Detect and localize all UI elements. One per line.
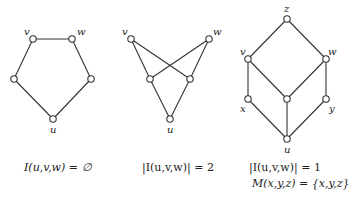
- edge-z-v: [248, 19, 287, 59]
- edge-b-u: [170, 79, 190, 119]
- node-v: [30, 36, 36, 42]
- node-v: [128, 36, 134, 42]
- node-x: [245, 96, 251, 102]
- graph-pentagon: [11, 36, 94, 122]
- node-u: [167, 116, 173, 122]
- graph-cube: [245, 16, 329, 142]
- node-w: [69, 36, 75, 42]
- node-z: [284, 16, 290, 22]
- node-label-w: w: [328, 47, 337, 57]
- caption-pentagon: I(u,v,w) = ∅: [24, 162, 92, 173]
- edge-v-m: [248, 59, 287, 99]
- caption-cube-median: M(x,y,z) = {x,y,z}: [252, 178, 350, 189]
- caption-cube-intersection: |I(u,v,w)| = 1: [249, 162, 321, 173]
- edge-a-u: [150, 79, 170, 119]
- node-label-v: v: [122, 27, 128, 37]
- node-m: [284, 96, 290, 102]
- node-label-u: u: [167, 125, 173, 135]
- node-label-u: u: [50, 125, 56, 135]
- edge-w-m: [287, 59, 326, 99]
- edge-y-u: [287, 99, 326, 139]
- node-label-w: w: [213, 27, 222, 37]
- edge-w-b: [72, 39, 91, 79]
- node-label-y: y: [329, 104, 335, 114]
- node-b: [187, 76, 193, 82]
- edge-z-w: [287, 19, 326, 59]
- node-label-v: v: [240, 47, 246, 57]
- edge-v-b: [131, 39, 190, 79]
- edge-v-a: [14, 39, 33, 79]
- node-a: [147, 76, 153, 82]
- node-u: [284, 136, 290, 142]
- edge-x-u: [248, 99, 287, 139]
- caption-crossed: |I(u,v,w)| = 2: [142, 162, 214, 173]
- node-label-v: v: [24, 27, 30, 37]
- node-label-x: x: [240, 104, 246, 114]
- edge-a-u: [14, 79, 53, 119]
- node-u: [50, 116, 56, 122]
- node-label-u: u: [284, 145, 290, 155]
- edge-b-u: [53, 79, 91, 119]
- node-label-w: w: [77, 27, 86, 37]
- node-w: [206, 36, 212, 42]
- node-a: [11, 76, 17, 82]
- node-y: [323, 96, 329, 102]
- node-label-z: z: [284, 4, 289, 14]
- edge-w-a: [150, 39, 209, 79]
- node-b: [88, 76, 94, 82]
- graph-crossed: [128, 36, 212, 122]
